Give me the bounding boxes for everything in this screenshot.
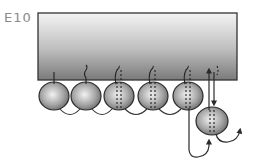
cell: [71, 82, 101, 110]
cell: [173, 82, 203, 110]
cell: [104, 82, 134, 110]
cell: [138, 82, 168, 110]
detached-cell: [196, 107, 228, 135]
diagram: [0, 0, 258, 166]
cell: [39, 82, 69, 110]
substrate-block: [38, 13, 237, 80]
